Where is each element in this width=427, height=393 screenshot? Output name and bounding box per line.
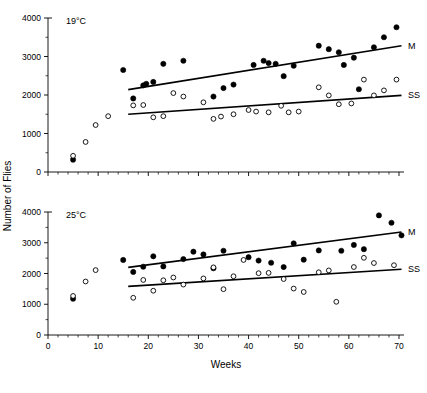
y-tick-label-bottom: 2000	[22, 269, 41, 279]
data-point-m-bottom	[201, 252, 206, 257]
x-tick-label-bottom: 70	[394, 341, 404, 351]
data-point-m-top	[121, 67, 126, 72]
data-point-ss-bottom	[181, 282, 186, 287]
data-point-m-bottom	[316, 248, 321, 253]
data-point-ss-bottom	[71, 294, 76, 299]
data-point-m-bottom	[301, 257, 306, 262]
data-point-ss-bottom	[266, 270, 271, 275]
data-point-ss-top	[106, 114, 111, 119]
data-point-m-bottom	[131, 269, 136, 274]
data-point-m-top	[291, 63, 296, 68]
y-tick-label-bottom: 3000	[22, 238, 41, 248]
data-point-ss-top	[336, 102, 341, 107]
data-point-m-bottom	[376, 213, 381, 218]
data-point-m-bottom	[361, 247, 366, 252]
y-tick-label-top: 4000	[22, 13, 41, 23]
data-point-m-bottom	[151, 254, 156, 259]
data-point-m-bottom	[161, 264, 166, 269]
data-point-m-top	[151, 79, 156, 84]
data-point-m-bottom	[191, 249, 196, 254]
data-point-ss-top	[372, 93, 377, 98]
data-point-ss-top	[211, 116, 216, 121]
data-point-m-top	[316, 43, 321, 48]
data-point-m-bottom	[399, 233, 404, 238]
data-point-ss-top	[71, 153, 76, 158]
data-point-ss-top	[93, 123, 98, 128]
data-point-ss-top	[181, 94, 186, 99]
y-axis-title: Number of Flies	[2, 161, 13, 232]
series-label-ss-bottom: SS	[408, 264, 420, 274]
data-point-ss-bottom	[316, 270, 321, 275]
data-point-m-bottom	[281, 264, 286, 269]
data-point-ss-bottom	[372, 261, 377, 266]
data-point-m-bottom	[221, 248, 226, 253]
data-point-m-bottom	[246, 255, 251, 260]
panel-title-bottom: 25°C	[66, 210, 87, 220]
data-point-m-bottom	[351, 242, 356, 247]
data-point-m-top	[371, 45, 376, 50]
data-point-ss-bottom	[93, 268, 98, 273]
data-point-m-top	[231, 82, 236, 87]
data-point-ss-top	[161, 114, 166, 119]
x-axis-title: Weeks	[211, 359, 241, 370]
data-point-ss-bottom	[141, 278, 146, 283]
data-point-ss-bottom	[131, 295, 136, 300]
data-point-ss-top	[131, 103, 136, 108]
data-point-ss-top	[279, 103, 284, 108]
data-point-ss-bottom	[161, 278, 166, 283]
x-tick-label-bottom: 60	[344, 341, 354, 351]
data-point-ss-top	[266, 110, 271, 115]
data-point-ss-bottom	[241, 258, 246, 263]
panel-title-top: 19°C	[66, 16, 87, 26]
data-point-m-bottom	[256, 258, 261, 263]
data-point-ss-bottom	[361, 255, 366, 260]
y-tick-label-top: 0	[36, 167, 41, 177]
x-tick-label-bottom: 40	[244, 341, 254, 351]
data-point-ss-top	[219, 114, 224, 119]
data-point-m-bottom	[121, 257, 126, 262]
data-point-ss-bottom	[211, 265, 216, 270]
data-point-ss-top	[394, 77, 399, 82]
data-point-ss-top	[246, 108, 251, 113]
data-point-ss-bottom	[392, 263, 397, 268]
data-point-ss-bottom	[301, 290, 306, 295]
figure-scatter-flies: 0100020003000400019°CMSS0100020003000400…	[0, 0, 427, 393]
data-point-ss-bottom	[291, 286, 296, 291]
data-point-m-top	[356, 87, 361, 92]
y-tick-label-bottom: 4000	[22, 207, 41, 217]
data-point-m-top	[181, 58, 186, 63]
y-tick-label-top: 3000	[22, 52, 41, 62]
x-tick-label-bottom: 20	[144, 341, 154, 351]
regression-line-m-top	[128, 46, 401, 90]
data-point-m-top	[281, 74, 286, 79]
data-point-ss-top	[316, 85, 321, 90]
x-tick-label-bottom: 10	[93, 341, 103, 351]
data-point-ss-bottom	[221, 287, 226, 292]
data-point-ss-top	[286, 110, 291, 115]
data-point-ss-bottom	[326, 268, 331, 273]
data-point-ss-top	[171, 91, 176, 96]
data-point-m-bottom	[291, 241, 296, 246]
data-point-ss-top	[231, 112, 236, 117]
data-point-m-top	[381, 35, 386, 40]
data-point-m-top	[144, 81, 149, 86]
data-point-ss-top	[296, 109, 301, 114]
data-point-ss-top	[254, 109, 259, 114]
data-point-ss-bottom	[151, 288, 156, 293]
data-point-m-top	[211, 94, 216, 99]
data-point-ss-bottom	[281, 277, 286, 282]
data-point-ss-bottom	[351, 265, 356, 270]
y-tick-label-bottom: 1000	[22, 299, 41, 309]
data-point-m-top	[131, 96, 136, 101]
regression-line-m-bottom	[128, 232, 401, 267]
regression-line-ss-top	[128, 95, 401, 114]
data-point-m-top	[221, 85, 226, 90]
data-point-m-bottom	[269, 260, 274, 265]
data-point-ss-top	[151, 115, 156, 120]
data-point-m-bottom	[389, 220, 394, 225]
series-label-ss-top: SS	[408, 90, 420, 100]
data-point-m-top	[251, 62, 256, 67]
x-tick-label-bottom: 0	[46, 341, 51, 351]
data-point-ss-bottom	[334, 299, 339, 304]
regression-line-ss-bottom	[128, 269, 401, 286]
